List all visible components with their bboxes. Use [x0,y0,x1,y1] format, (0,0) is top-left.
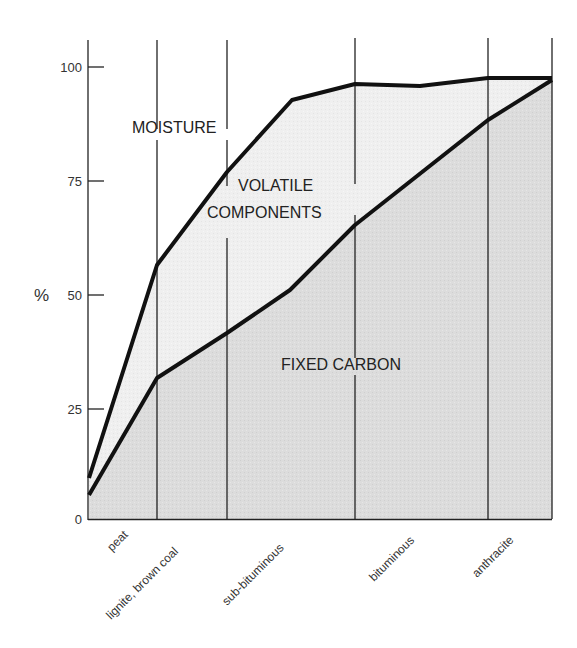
category-peat: peat [104,527,131,554]
y-tick-75: 75 [68,174,82,189]
moisture-label: MOISTURE [132,119,216,136]
coal-composition-chart: 100 75 50 25 0 % MOISTURE VOLATILE COMPO… [0,0,577,648]
y-axis-unit: % [34,286,49,305]
y-tick-0: 0 [75,512,82,527]
y-tick-50: 50 [68,288,82,303]
volatile-label-line1: VOLATILE [238,177,313,194]
category-lignite: lignite, brown coal [103,544,181,622]
y-tick-25: 25 [68,402,82,417]
category-anthracite: anthracite [469,533,516,580]
y-tick-100: 100 [60,60,82,75]
volatile-label-line2: COMPONENTS [207,204,322,221]
category-bituminous: bituminous [366,533,417,584]
fixed-carbon-label: FIXED CARBON [281,356,401,373]
category-sub-bituminous: sub-bituminous [219,541,286,608]
